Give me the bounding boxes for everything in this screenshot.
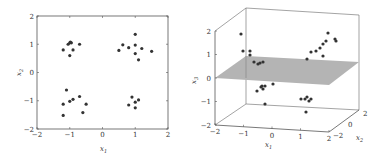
y-tick-label: 1 [30,41,34,49]
x2-axis-label: x2 [356,134,363,143]
data-point-3d [261,87,264,90]
data-point-3d [261,60,264,63]
data-point-3d [239,32,242,35]
x-tick-label: 1 [133,131,137,139]
scatter-2d-plot: −2−1012−2−1012 x1 x2 [15,13,170,154]
data-point [78,95,81,98]
x-axis-label: x1 [100,145,107,154]
data-point [134,33,137,36]
data-point-3d [299,97,302,100]
back-top [246,8,359,15]
data-point-3d [305,57,308,60]
data-point-3d [321,54,324,57]
data-point-3d [309,97,312,100]
figure: −2−1012−2−1012 x1 x2 −2−1012−2−1012−202 … [0,0,382,157]
data-point-3d [252,60,255,63]
x1-tick-label: 2 [327,135,331,143]
scatter-3d-plot: −2−1012−2−1012−202 x1 x2 x3 [190,8,367,150]
data-point-3d [263,102,266,105]
z-tick-label: 0 [207,75,211,83]
data-point-3d [271,82,274,85]
data-point-3d [304,110,307,113]
x1-tick-label: 0 [270,132,274,140]
data-points [62,33,154,117]
data-point-3d [318,46,321,49]
x2-tick-label: 2 [363,110,367,118]
data-point [67,43,70,46]
data-point-3d [260,84,263,87]
data-point [130,95,133,98]
top-left-edge [215,8,246,31]
data-point [137,98,140,101]
data-point [134,106,137,109]
z-tick-label: 2 [207,28,211,36]
data-point [62,114,65,117]
data-point-3d [258,61,261,64]
data-point-3d [324,39,327,42]
y-tick-label: 0 [30,69,34,77]
data-point-3d [309,50,312,53]
x-tick-label: 0 [100,131,104,139]
data-point [81,111,84,114]
data-point [69,40,72,43]
data-point [121,43,124,46]
data-point [117,49,120,52]
plot-frame [37,16,168,129]
y-tick-label: −1 [24,97,34,105]
x2-tick-label: 0 [348,121,352,129]
y-axis-label: x2 [15,69,24,76]
z-tick-label: −1 [201,98,211,106]
x3-axis-label: x3 [190,77,199,84]
data-point [71,48,74,51]
data-point [85,103,88,106]
data-point [65,88,68,91]
data-point [127,103,130,106]
data-point-3d [321,42,324,45]
data-point [78,43,81,46]
data-point [134,52,137,55]
data-point-3d [248,53,251,56]
x-tick-label: 2 [166,131,170,139]
data-point [68,54,71,57]
data-point-3d [305,95,308,98]
data-point [68,100,71,103]
data-point [137,58,140,61]
z-tick-label: 1 [207,51,211,59]
data-point [134,101,137,104]
data-point-3d [334,39,337,42]
data-point [150,50,153,53]
y-tick-label: −2 [24,126,34,134]
data-point-3d [326,31,329,34]
axis-ticks: −2−1012−2−1012 [24,13,171,140]
x1-tick-label: −2 [210,128,220,136]
data-point [71,98,74,101]
x2-axis [329,110,359,132]
bottom-left-edge [215,104,246,125]
x2-tick-label: −2 [333,132,343,140]
x1-axis-label: x1 [265,141,272,150]
data-point-3d [248,49,251,52]
x-tick-label: −1 [65,131,75,139]
separating-plane [215,56,359,85]
data-point [62,48,65,51]
data-point [127,46,130,49]
y-tick-label: 2 [30,13,34,21]
data-point-3d [255,89,258,92]
data-point [140,47,143,50]
x1-tick-label: −1 [238,130,248,138]
data-point-3d [263,84,266,87]
data-point-3d [314,49,317,52]
x1-tick-label: 1 [298,133,302,141]
data-point-3d [241,49,244,52]
data-point [62,103,65,106]
data-point [134,43,137,46]
